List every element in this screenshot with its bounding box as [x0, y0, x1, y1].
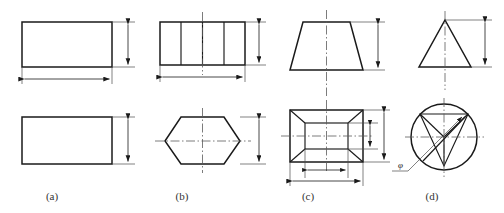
center-spoke [420, 114, 444, 137]
corner-diagonal [348, 110, 363, 123]
figure-d-front-view [419, 11, 492, 90]
corner-diagonal [348, 149, 363, 162]
caption-b: (b) [162, 190, 202, 202]
figure-d-top-view: φ [392, 98, 484, 177]
diameter-symbol-label: φ [398, 160, 403, 170]
technical-drawing-sheet: .obj{fill:none;stroke:#1a1a1a;stroke-wid… [0, 0, 504, 213]
figure-c-front-view [290, 10, 385, 96]
caption-d: (d) [412, 190, 452, 202]
drawing-canvas: .obj{fill:none;stroke:#1a1a1a;stroke-wid… [0, 0, 504, 213]
rectangle-front-a [22, 22, 112, 67]
corner-diagonal [290, 110, 305, 123]
figure-a-top-view [22, 117, 135, 164]
rectangle-top-a [22, 117, 112, 164]
figure-b-front-view [160, 12, 266, 82]
caption-a: (a) [32, 190, 72, 202]
caption-c: (c) [288, 190, 328, 202]
figure-a-front-view [22, 22, 135, 84]
figure-b-top-view [155, 108, 266, 173]
figure-c-top-view [281, 100, 390, 186]
corner-diagonal [290, 149, 305, 162]
